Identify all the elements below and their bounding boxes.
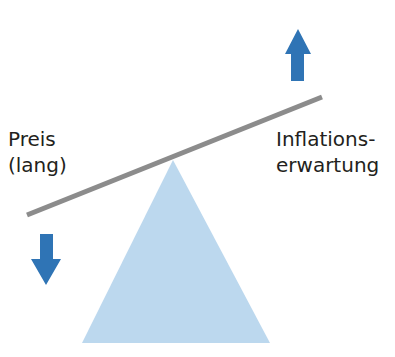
- price-label: Preis (lang): [8, 126, 67, 178]
- arrow-down-icon: [31, 234, 61, 285]
- price-label-line2: (lang): [8, 152, 67, 178]
- fulcrum-triangle: [82, 160, 270, 343]
- arrow-up-icon: [285, 29, 311, 81]
- seesaw-diagram: [0, 0, 395, 357]
- inflation-expectation-label: Inflations- erwartung: [276, 126, 379, 178]
- price-label-line1: Preis: [8, 126, 67, 152]
- inflation-label-line1: Inflations-: [276, 126, 379, 152]
- inflation-label-line2: erwartung: [276, 152, 379, 178]
